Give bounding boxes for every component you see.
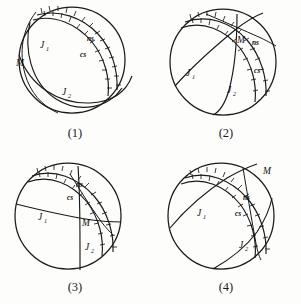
label-cs: cs	[254, 66, 260, 75]
stereonet-panel-1: J 1 J 2 M ns cs (1)	[0, 0, 150, 152]
label-cs: cs	[80, 50, 86, 59]
label-j1: J 1	[197, 208, 206, 220]
great-circle-m	[22, 12, 58, 113]
great-circle-ns	[32, 173, 113, 252]
svg-text:2: 2	[245, 245, 248, 252]
label-m: M	[81, 218, 91, 228]
stereonet-panel-4: J 1 J 2 M ns cs (4)	[151, 152, 301, 304]
panel-caption-1: (1)	[0, 126, 150, 141]
label-cs: cs	[235, 209, 241, 218]
svg-text:2: 2	[233, 90, 236, 97]
panel-caption-3: (3)	[0, 280, 150, 295]
cs-tick-marks	[39, 172, 105, 245]
svg-text:J: J	[197, 208, 202, 218]
figure-root: J 1 J 2 M ns cs (1)	[0, 0, 301, 304]
svg-text:2: 2	[68, 92, 71, 99]
svg-text:2: 2	[91, 247, 94, 254]
cs-tick-marks	[44, 11, 112, 88]
cs-tick-marks	[192, 18, 258, 91]
label-ns: ns	[243, 193, 250, 202]
label-cs: cs	[67, 193, 73, 202]
label-j1: J 1	[38, 212, 47, 224]
svg-text:J: J	[239, 240, 244, 250]
label-m: M	[15, 58, 25, 68]
svg-text:1: 1	[192, 73, 195, 80]
stereonet-panel-3: J 1 J 2 M ns cs (3)	[0, 152, 150, 304]
label-j1: J 1	[40, 40, 49, 52]
label-ns: ns	[87, 34, 94, 43]
panel-caption-4: (4)	[151, 280, 301, 295]
sphere-outline	[19, 7, 125, 113]
label-ns: ns	[76, 180, 83, 189]
svg-text:J: J	[40, 40, 45, 50]
label-m: M	[262, 166, 272, 176]
svg-text:J: J	[227, 85, 232, 95]
label-m: M	[236, 35, 246, 45]
svg-text:1: 1	[203, 213, 206, 220]
cs-tick-marks	[192, 174, 258, 247]
svg-text:J: J	[38, 212, 43, 222]
great-circle-ns	[185, 19, 266, 96]
panel-caption-2: (2)	[151, 126, 301, 141]
label-ns: ns	[252, 38, 259, 47]
svg-text:1: 1	[44, 217, 47, 224]
stereonet-panel-2: J 1 J 2 M ns cs (2)	[151, 0, 301, 152]
label-j2: J 2	[227, 85, 236, 97]
svg-text:J: J	[85, 242, 90, 252]
svg-text:1: 1	[46, 45, 49, 52]
label-j2: J 2	[85, 242, 94, 254]
ns-tick-marks	[190, 167, 270, 249]
ns-tick-marks	[41, 6, 121, 85]
svg-text:J: J	[62, 87, 67, 97]
great-circle-j2	[213, 198, 272, 269]
label-j2: J 2	[62, 87, 71, 99]
great-circle-cs	[33, 18, 108, 96]
